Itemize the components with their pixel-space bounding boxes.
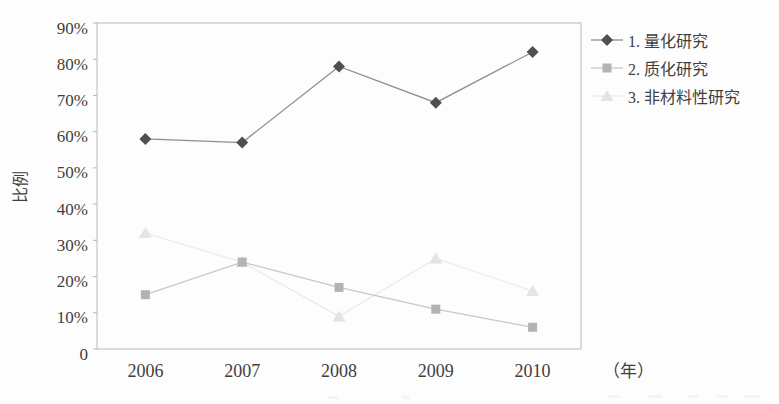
- x-tick-label: 2007: [224, 361, 260, 381]
- x-axis-unit-label: （年）: [603, 362, 654, 381]
- x-tick-label: 2008: [321, 361, 357, 381]
- data-point-marker: [139, 227, 152, 238]
- x-tick-label: 2006: [127, 361, 163, 381]
- y-tick-label: 50%: [57, 163, 88, 182]
- legend: 1. 量化研究2. 质化研究3. 非材料性研究: [591, 33, 740, 106]
- y-axis-ticks: 90%80%70%60%50%40%30%20%10%0: [57, 19, 97, 364]
- x-axis-ticks: 20062007200820092010: [127, 361, 550, 381]
- data-point-marker: [430, 97, 442, 109]
- y-tick-label: 90%: [57, 19, 88, 38]
- y-tick-label: 30%: [57, 236, 88, 255]
- legend-label: 1. 量化研究: [628, 33, 708, 50]
- data-point-marker: [527, 46, 539, 58]
- cropped-caption-remnant: [328, 395, 760, 399]
- data-point-marker: [141, 290, 150, 299]
- line-chart: 90%80%70%60%50%40%30%20%10%0 20062007200…: [0, 0, 779, 404]
- legend-item: 3. 非材料性研究: [591, 89, 740, 106]
- data-point-marker: [139, 133, 151, 145]
- legend-marker: [601, 34, 613, 46]
- legend-label: 3. 非材料性研究: [628, 89, 740, 106]
- legend-item: 2. 质化研究: [591, 61, 708, 78]
- data-series: [139, 46, 539, 332]
- data-point-marker: [333, 310, 346, 321]
- data-point-marker: [528, 323, 537, 332]
- x-tick-label: 2010: [515, 361, 551, 381]
- x-tick-label: 2009: [418, 361, 454, 381]
- data-point-marker: [238, 258, 247, 267]
- y-tick-label: 20%: [57, 272, 88, 291]
- legend-item: 1. 量化研究: [591, 33, 708, 50]
- y-axis-title: 比例: [12, 171, 29, 203]
- series-3: [139, 227, 539, 321]
- y-tick-label: 40%: [57, 200, 88, 219]
- y-tick-label: 0: [80, 345, 89, 364]
- y-tick-label: 10%: [57, 308, 88, 327]
- y-tick-label: 80%: [57, 55, 88, 74]
- y-tick-label: 70%: [57, 91, 88, 110]
- y-tick-label: 60%: [57, 127, 88, 146]
- line-chart-figure: 90%80%70%60%50%40%30%20%10%0 20062007200…: [0, 0, 779, 404]
- data-point-marker: [335, 283, 344, 292]
- series-1: [139, 46, 538, 149]
- legend-label: 2. 质化研究: [628, 61, 708, 78]
- legend-marker: [603, 64, 612, 73]
- data-point-marker: [236, 137, 248, 149]
- data-point-marker: [333, 60, 345, 72]
- data-point-marker: [429, 252, 442, 263]
- data-point-marker: [526, 285, 539, 296]
- data-point-marker: [431, 305, 440, 314]
